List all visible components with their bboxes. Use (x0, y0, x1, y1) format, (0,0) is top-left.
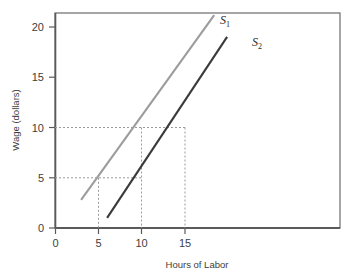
x-tick-label-10: 10 (135, 237, 147, 249)
labor-supply-chart: 0 5 10 15 20 0 5 10 15 S1 S2 Wage (dolla… (0, 0, 349, 277)
y-axis-title: Wage (dollars) (10, 89, 21, 150)
x-axis-title: Hours of Labor (166, 259, 229, 270)
x-tick-label-15: 15 (179, 237, 191, 249)
y-tick-label-5: 5 (38, 172, 44, 184)
x-tick-label-0: 0 (52, 237, 58, 249)
y-tick-label-0: 0 (38, 222, 44, 234)
series-label-s1-subscript: 1 (226, 20, 230, 29)
series-label-s2-subscript: 2 (258, 42, 262, 51)
y-tick-label-10: 10 (32, 122, 44, 134)
x-tick-label-5: 5 (95, 237, 101, 249)
chart-canvas: 0 5 10 15 20 0 5 10 15 S1 S2 Wage (dolla… (0, 0, 349, 277)
y-tick-label-20: 20 (32, 21, 44, 33)
plot-frame (55, 13, 340, 228)
y-tick-label-15: 15 (32, 71, 44, 83)
